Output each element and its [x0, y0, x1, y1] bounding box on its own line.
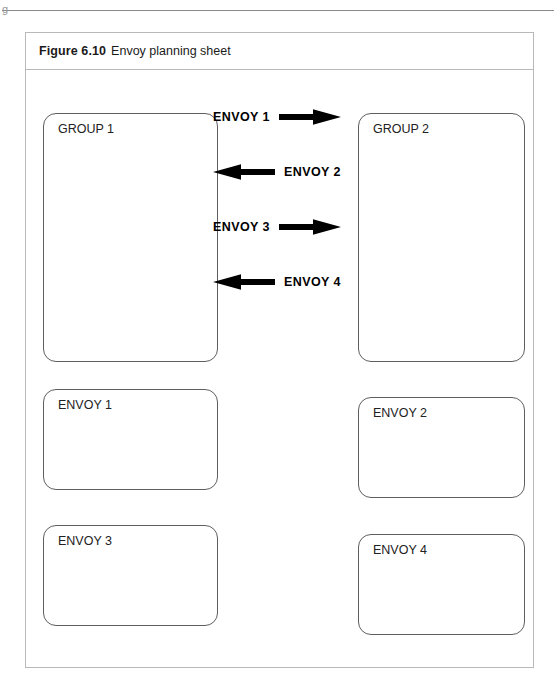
envoy-box-3[interactable]: ENVOY 3 — [43, 525, 218, 626]
envoy-box-4-label: ENVOY 4 — [373, 544, 427, 557]
figure-caption: Figure 6.10Envoy planning sheet — [39, 45, 231, 58]
group-box-2[interactable]: GROUP 2 — [358, 113, 525, 362]
envoy-box-4[interactable]: ENVOY 4 — [358, 534, 525, 635]
envoy-arrow-label-2: ENVOY 2 — [284, 166, 341, 179]
figure-caption-bar: Figure 6.10Envoy planning sheet — [26, 33, 533, 70]
envoy-arrow-label-3: ENVOY 3 — [213, 221, 270, 234]
page-header-crumb: g — [2, 4, 8, 15]
arrow-left-icon — [213, 272, 275, 292]
envoy-arrow-row-3: ENVOY 3 — [213, 216, 365, 238]
envoy-box-3-label: ENVOY 3 — [58, 535, 112, 548]
group-box-1[interactable]: GROUP 1 — [43, 113, 218, 362]
envoy-arrow-row-4: ENVOY 4 — [213, 271, 365, 293]
envoy-box-2-label: ENVOY 2 — [373, 407, 427, 420]
envoy-arrow-label-4: ENVOY 4 — [284, 276, 341, 289]
envoy-arrow-row-1: ENVOY 1 — [213, 106, 365, 128]
envoy-box-1-label: ENVOY 1 — [58, 399, 112, 412]
figure-title: Envoy planning sheet — [111, 44, 231, 58]
arrow-left-icon — [213, 162, 275, 182]
envoy-arrow-row-2: ENVOY 2 — [213, 161, 365, 183]
envoy-arrow-label-1: ENVOY 1 — [213, 111, 270, 124]
envoy-box-2[interactable]: ENVOY 2 — [358, 397, 525, 498]
group-box-2-label: GROUP 2 — [373, 123, 429, 136]
figure-frame: Figure 6.10Envoy planning sheet GROUP 1 … — [25, 32, 534, 668]
figure-body: GROUP 1 GROUP 2 ENVOY 1 ENVOY 2 ENVOY 3 — [26, 70, 533, 667]
page-header-rule: g — [2, 10, 554, 11]
envoy-box-1[interactable]: ENVOY 1 — [43, 389, 218, 490]
arrow-right-icon — [279, 217, 341, 237]
figure-number: Figure 6.10 — [39, 44, 106, 58]
arrow-right-icon — [279, 107, 341, 127]
group-box-1-label: GROUP 1 — [58, 123, 114, 136]
